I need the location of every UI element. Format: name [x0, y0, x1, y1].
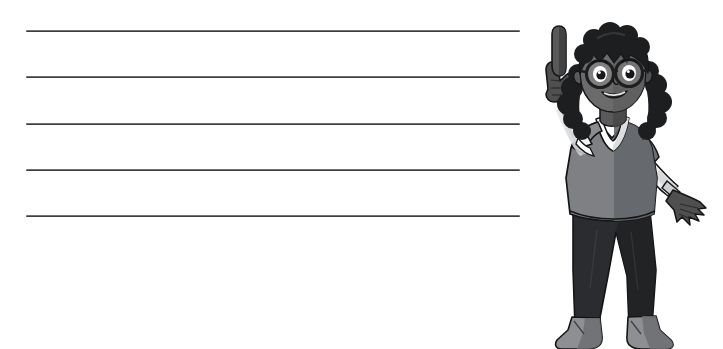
- worksheet-page: [0, 0, 723, 349]
- pants-group: [573, 211, 656, 328]
- writing-lines-area: [0, 0, 530, 349]
- girl-pointing-up-illustration: [528, 18, 723, 349]
- writing-line-5[interactable]: [26, 215, 520, 217]
- writing-line-2[interactable]: [26, 76, 520, 78]
- writing-line-4[interactable]: [26, 169, 520, 171]
- writing-line-1[interactable]: [26, 30, 520, 32]
- boots-group: [556, 316, 673, 349]
- writing-line-3[interactable]: [26, 123, 520, 125]
